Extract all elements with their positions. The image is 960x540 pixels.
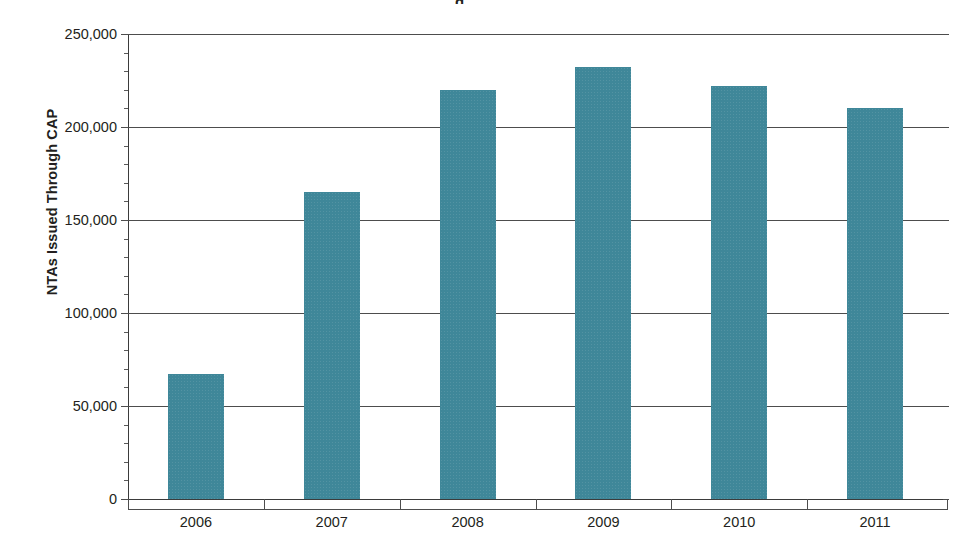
bar-2007 [304,192,360,499]
y-axis-tick-label: 200,000 [65,119,117,135]
x-axis-tick [807,499,808,510]
y-axis-minor-tick [124,387,128,388]
bar-chart-figure: g NTAs Issued Through CAP 050,000100,000… [0,0,960,540]
y-gridline [128,34,943,35]
y-axis-minor-tick [124,146,128,147]
y-axis-minor-tick [124,480,128,481]
y-axis-tick-right [943,220,949,221]
y-axis-tick [121,313,128,314]
y-axis-tick-right [943,34,949,35]
y-axis-minor-tick [124,462,128,463]
bar-2010 [711,86,767,499]
y-axis-minor-tick [124,443,128,444]
y-axis-tick-label: 150,000 [65,212,117,228]
y-axis-minor-tick [124,294,128,295]
x-axis-tick-end [947,499,948,510]
y-axis-title: NTAs Issued Through CAP [44,52,60,352]
x-axis-tick [400,499,401,510]
bar-2008 [440,90,496,499]
x-axis-tick [536,499,537,510]
y-axis-minor-tick [124,201,128,202]
y-gridline [128,220,943,221]
y-axis-tick-right [943,499,949,500]
y-axis-minor-tick [124,369,128,370]
chart-title-cropped: g [455,0,469,4]
y-axis-minor-tick [124,90,128,91]
y-axis-tick [121,127,128,128]
bar-2006 [168,374,224,499]
y-gridline [128,127,943,128]
y-axis-minor-tick [124,257,128,258]
y-axis-tick [121,34,128,35]
bar-2009 [575,67,631,499]
y-axis-spine [128,34,129,499]
y-axis-tick [121,499,128,500]
x-axis-label-2007: 2007 [316,514,348,530]
y-axis-tick-label: 0 [109,491,117,507]
y-axis-tick-right [943,127,949,128]
y-axis-tick-right [943,313,949,314]
x-axis-label-2006: 2006 [180,514,212,530]
x-axis-tick [671,499,672,510]
y-axis-minor-tick [124,425,128,426]
bar-2011 [847,108,903,499]
y-axis-tick-label: 50,000 [73,398,117,414]
y-axis-minor-tick [124,53,128,54]
y-gridline [128,313,943,314]
y-axis-minor-tick [124,71,128,72]
y-axis-tick-label: 250,000 [65,26,117,42]
y-axis-minor-tick [124,183,128,184]
y-axis-minor-tick [124,350,128,351]
y-axis-minor-tick [124,239,128,240]
x-axis-label-2010: 2010 [723,514,755,530]
y-axis-minor-tick [124,276,128,277]
y-axis-tick [121,220,128,221]
y-axis-tick [121,406,128,407]
x-axis-line [128,509,947,510]
y-axis-minor-tick [124,332,128,333]
y-axis-tick-right [943,406,949,407]
y-axis-minor-tick [124,108,128,109]
y-gridline [128,406,943,407]
x-axis-tick [128,499,129,510]
plot-area: 050,000100,000150,000200,000250,000 [128,34,943,499]
x-axis-label-2011: 2011 [859,514,890,530]
x-axis-tick [264,499,265,510]
x-axis-label-2008: 2008 [451,514,483,530]
x-axis-label-2009: 2009 [587,514,619,530]
y-axis-minor-tick [124,164,128,165]
y-axis-tick-label: 100,000 [65,305,117,321]
